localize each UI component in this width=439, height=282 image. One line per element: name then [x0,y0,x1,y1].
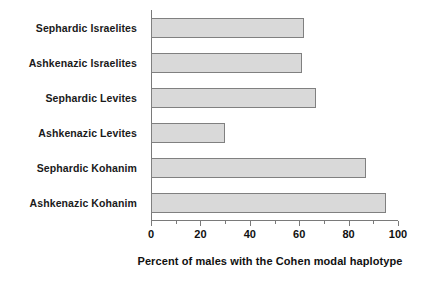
bar-row [151,115,398,150]
x-tick-minor [275,221,276,224]
x-tick-minor [373,221,374,224]
x-axis-tick-labels: 020406080100 [151,228,398,244]
x-tick-label: 80 [342,228,354,240]
x-tick-minor [176,221,177,224]
x-tick-label: 40 [244,228,256,240]
bar [151,18,304,38]
x-tick-major [398,221,399,226]
x-tick-major [299,221,300,226]
bar-row [151,45,398,80]
bar [151,53,302,73]
bar [151,193,386,213]
x-tick-major [151,221,152,226]
x-tick-major [200,221,201,226]
bar-chart-figure: Sephardic Israelites Ashkenazic Israelit… [0,0,439,282]
x-axis-ticks [151,221,398,227]
bar [151,88,316,108]
x-tick-major [250,221,251,226]
category-label-ashkenazic-levites: Ashkenazic Levites [0,115,145,150]
bar-row [151,80,398,115]
x-tick-label: 60 [293,228,305,240]
category-label-ashkenazic-kohanim: Ashkenazic Kohanim [0,185,145,220]
bar [151,123,225,143]
category-label-sephardic-israelites: Sephardic Israelites [0,10,145,45]
plot-area: 020406080100 [151,10,398,220]
category-axis-labels: Sephardic Israelites Ashkenazic Israelit… [0,10,145,220]
x-tick-label: 0 [148,228,154,240]
bar-row [151,185,398,220]
bar [151,158,366,178]
bar-row [151,10,398,45]
category-label-sephardic-levites: Sephardic Levites [0,80,145,115]
x-tick-major [349,221,350,226]
category-label-ashkenazic-israelites: Ashkenazic Israelites [0,45,145,80]
x-tick-minor [324,221,325,224]
x-tick-label: 100 [389,228,407,240]
bar-series [151,10,398,220]
bar-row [151,150,398,185]
x-tick-label: 20 [194,228,206,240]
x-axis-title: Percent of males with the Cohen modal ha… [110,255,430,267]
category-label-sephardic-kohanim: Sephardic Kohanim [0,150,145,185]
x-tick-minor [225,221,226,224]
